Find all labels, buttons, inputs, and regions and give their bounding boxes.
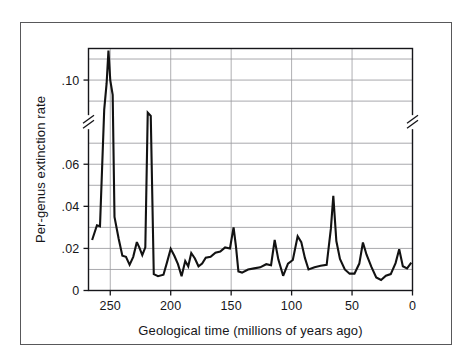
- y-axis-tick-label: .04: [62, 200, 80, 214]
- y-axis-tick-label: .02: [62, 242, 80, 256]
- axis-break-left: [83, 115, 94, 129]
- x-axis-tick-label: 250: [100, 299, 121, 313]
- extinction-rate-line-chart: 0.02.04.06.10250200150100500Geological t…: [0, 0, 472, 362]
- x-axis-tick-label: 150: [220, 299, 241, 313]
- y-axis-tick-label: 0: [72, 284, 79, 298]
- grid-lines: [89, 49, 413, 291]
- x-axis-tick-label: 100: [281, 299, 302, 313]
- y-axis-tick-label: .06: [62, 158, 80, 172]
- x-axis-tick-label: 0: [409, 299, 416, 313]
- y-axis-tick-label: .10: [62, 74, 80, 88]
- x-axis-tick-label: 50: [345, 299, 359, 313]
- x-axis-title: Geological time (millions of years ago): [138, 323, 362, 338]
- axis-break-right: [407, 115, 418, 129]
- x-axis-tick-label: 200: [160, 299, 181, 313]
- y-axis-title: Per-genus extinction rate: [33, 96, 48, 243]
- figure-container: 0.02.04.06.10250200150100500Geological t…: [0, 0, 472, 362]
